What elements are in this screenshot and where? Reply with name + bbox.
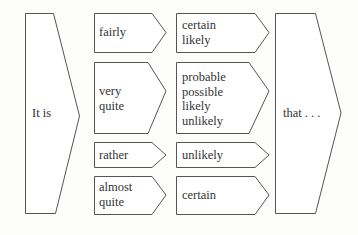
adjective-label-1: certain likely xyxy=(182,18,216,47)
end-label: that . . . xyxy=(283,106,321,121)
adjective-text: unlikely xyxy=(182,148,223,163)
modifier-label-2: very quite xyxy=(99,84,124,113)
adjective-label-2: probable possible likely unlikely xyxy=(182,70,226,128)
phrase-diagram: It is that . . . fairly very quite rathe… xyxy=(0,0,358,235)
modifier-text: quite xyxy=(99,195,132,210)
start-label: It is xyxy=(32,106,51,121)
adjective-text: likely xyxy=(182,99,226,114)
adjective-label-4: certain xyxy=(182,188,216,203)
modifier-label-1: fairly xyxy=(99,25,126,40)
adjective-text: certain xyxy=(182,18,216,33)
modifier-text: very xyxy=(99,84,124,99)
adjective-text: possible xyxy=(182,85,226,100)
modifier-text: rather xyxy=(99,148,128,163)
modifier-label-3: rather xyxy=(99,148,128,163)
adjective-label-3: unlikely xyxy=(182,148,223,163)
modifier-text: quite xyxy=(99,99,124,114)
adjective-text: certain xyxy=(182,188,216,203)
adjective-text: likely xyxy=(182,33,216,48)
modifier-text: almost xyxy=(99,180,132,195)
modifier-label-4: almost quite xyxy=(99,180,132,209)
modifier-text: fairly xyxy=(99,25,126,40)
adjective-text: probable xyxy=(182,70,226,85)
adjective-text: unlikely xyxy=(182,114,226,129)
